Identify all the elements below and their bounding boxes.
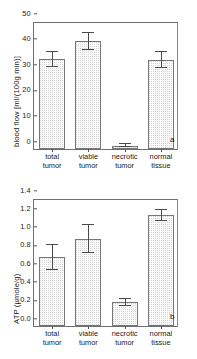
error-bar bbox=[161, 52, 162, 67]
x-tick-label-line: tumor bbox=[112, 162, 138, 171]
x-tick-label-line: tumor bbox=[43, 162, 62, 171]
x-tick-label-line: tumor bbox=[79, 339, 98, 348]
x-tick-label: normaltissue bbox=[150, 330, 173, 347]
y-tick-label: 0.8 bbox=[20, 242, 34, 249]
y-tick-label: 0.2 bbox=[20, 297, 34, 304]
plot-area-b: 0.00.20.40.60.81.01.21.4totaltumorviable… bbox=[33, 199, 178, 327]
bar bbox=[75, 41, 101, 149]
x-tick-label-line: tissue bbox=[150, 339, 173, 348]
x-tick-label: viabletumor bbox=[79, 153, 98, 170]
error-bar-cap bbox=[46, 244, 58, 245]
x-tick-label: viabletumor bbox=[79, 330, 98, 347]
error-bar-cap bbox=[119, 298, 131, 299]
bar bbox=[148, 215, 174, 326]
x-tick-label: necrotictumor bbox=[112, 153, 138, 170]
x-tick-label-line: tumor bbox=[112, 339, 138, 348]
y-tick-label: 0.4 bbox=[20, 278, 34, 285]
x-tick-label-line: tissue bbox=[150, 162, 173, 171]
panel-letter-b: b bbox=[170, 313, 174, 321]
y-tick-label: 30 bbox=[22, 61, 34, 68]
y-tick-label: 10 bbox=[22, 112, 34, 119]
y-tick-label: 50 bbox=[22, 10, 34, 17]
y-tick-label: 1.4 bbox=[20, 187, 34, 194]
y-tick-label: 20 bbox=[22, 87, 34, 94]
chart-panel-a: 01020304050totaltumorviabletumornecrotic… bbox=[0, 0, 197, 179]
error-bar-cap bbox=[155, 209, 167, 210]
y-tick-label: 40 bbox=[22, 36, 34, 43]
error-bar-cap bbox=[119, 143, 131, 144]
error-bar bbox=[52, 245, 53, 271]
error-bar-cap bbox=[46, 51, 58, 52]
y-tick-label: 1.2 bbox=[20, 205, 34, 212]
x-tick-label-line: tumor bbox=[43, 339, 62, 348]
error-bar-cap bbox=[119, 146, 131, 147]
panel-letter-a: a bbox=[170, 136, 174, 144]
x-tick-label: totaltumor bbox=[43, 330, 62, 347]
y-tick-label: 0.0 bbox=[20, 315, 34, 322]
error-bar-cap bbox=[82, 252, 94, 253]
y-axis-label-b: ATP (µmole/g) bbox=[12, 274, 21, 324]
error-bar-cap bbox=[82, 32, 94, 33]
error-bar-cap bbox=[82, 224, 94, 225]
y-tick-label: 0 bbox=[26, 138, 34, 145]
error-bar-cap bbox=[46, 66, 58, 67]
x-tick-label: necrotictumor bbox=[112, 330, 138, 347]
error-bar-cap bbox=[119, 305, 131, 306]
error-bar-cap bbox=[155, 51, 167, 52]
x-tick-label: totaltumor bbox=[43, 153, 62, 170]
x-tick-label: normaltissue bbox=[150, 153, 173, 170]
figure: 01020304050totaltumorviabletumornecrotic… bbox=[0, 0, 197, 359]
x-tick-label-line: tumor bbox=[79, 162, 98, 171]
error-bar bbox=[88, 225, 89, 252]
error-bar-cap bbox=[46, 269, 58, 270]
error-bar-cap bbox=[82, 49, 94, 50]
y-axis-label-a: blood flow [ml/(100g min)] bbox=[12, 56, 21, 147]
chart-panel-b: 0.00.20.40.60.81.01.21.4totaltumorviable… bbox=[0, 180, 197, 359]
bar bbox=[39, 59, 65, 149]
error-bar bbox=[52, 52, 53, 67]
y-tick-label: 0.6 bbox=[20, 260, 34, 267]
error-bar bbox=[88, 33, 89, 51]
y-tick-label: 1.0 bbox=[20, 223, 34, 230]
error-bar-cap bbox=[155, 67, 167, 68]
error-bar-cap bbox=[155, 220, 167, 221]
plot-area-a: 01020304050totaltumorviabletumornecrotic… bbox=[33, 22, 178, 150]
